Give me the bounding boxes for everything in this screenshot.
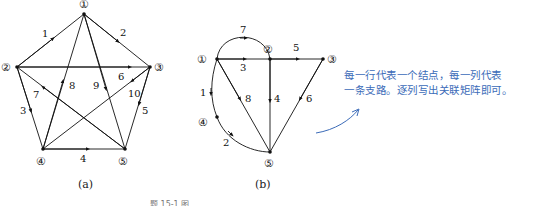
svg-text:6: 6: [118, 71, 124, 82]
svg-text:7: 7: [240, 24, 246, 35]
svg-text:8: 8: [69, 80, 75, 91]
graph-a: [17, 14, 150, 149]
svg-text:6: 6: [306, 93, 312, 104]
svg-text:5: 5: [293, 42, 299, 53]
edge-b-1: [212, 59, 217, 117]
svg-text:4: 4: [274, 93, 280, 104]
svg-text:②: ②: [1, 61, 11, 74]
svg-text:③: ③: [154, 61, 164, 74]
svg-text:③: ③: [327, 53, 337, 66]
svg-text:1: 1: [200, 87, 206, 98]
svg-text:②: ②: [263, 43, 273, 56]
figure-caption: 题 15-1 图: [150, 198, 189, 206]
svg-text:3: 3: [240, 62, 246, 73]
svg-text:2: 2: [223, 137, 229, 148]
circuit-graphs: ① ② ③ ④ ⑤ 1 2 3 4 5 6 7 8 9 10: [0, 0, 545, 206]
svg-text:8: 8: [245, 93, 251, 104]
handwritten-annotation: 每一行代表一个结点，每一列代表 一条支路。逐列写出关联矩阵即可。: [344, 68, 544, 98]
svg-text:3: 3: [20, 105, 26, 116]
svg-text:⑤: ⑤: [264, 157, 274, 170]
svg-text:④: ④: [36, 155, 46, 168]
svg-text:4: 4: [80, 153, 86, 164]
svg-text:①: ①: [79, 0, 89, 11]
svg-text:7: 7: [33, 89, 39, 100]
svg-text:9: 9: [93, 80, 99, 91]
svg-text:⑤: ⑤: [118, 155, 128, 168]
svg-text:5: 5: [142, 105, 148, 116]
graph-a-labels: ① ② ③ ④ ⑤ 1 2 3 4 5 6 7 8 9 10: [1, 0, 164, 168]
annotation-arrow: [316, 110, 358, 133]
caption-b: (b): [255, 178, 271, 191]
svg-text:④: ④: [198, 116, 208, 129]
svg-text:①: ①: [197, 53, 207, 66]
graph-b-labels: ① ② ③ ④ ⑤ 7 3 5 1 2 4 6 8: [197, 24, 337, 170]
svg-text:1: 1: [42, 28, 48, 39]
annotation-line-2: 一条支路。逐列写出关联矩阵即可。: [344, 83, 544, 98]
caption-a: (a): [78, 178, 93, 191]
svg-text:10: 10: [128, 88, 141, 99]
svg-text:2: 2: [120, 27, 126, 38]
annotation-line-1: 每一行代表一个结点，每一列代表: [344, 68, 544, 83]
